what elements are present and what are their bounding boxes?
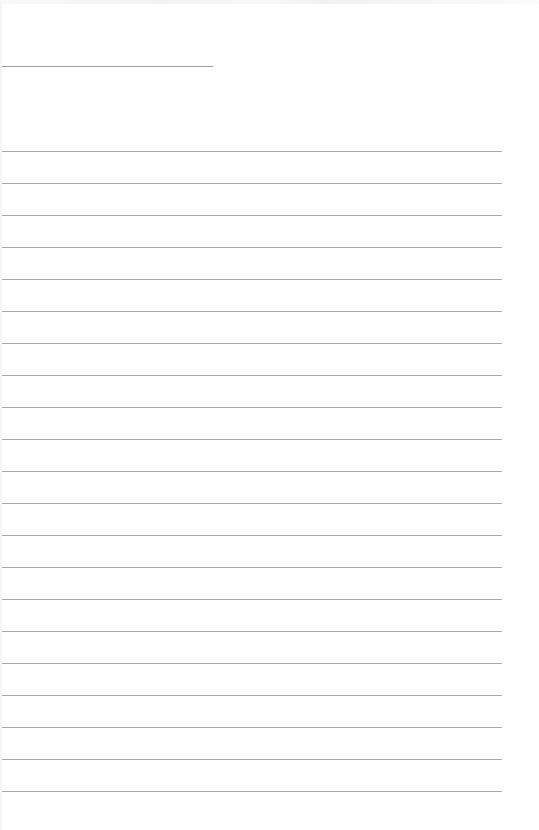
ruled-line [2,407,502,408]
ruled-line [2,727,502,728]
ruled-line [2,503,502,504]
ruled-line [2,439,502,440]
ruled-line [2,247,502,248]
page-left-edge [0,0,3,830]
ruled-line [2,215,502,216]
ruled-line [2,567,502,568]
ruled-line [2,471,502,472]
ruled-line [2,279,502,280]
ruled-line [2,599,502,600]
header-name-line [2,66,213,67]
ruled-line [2,631,502,632]
ruled-line [2,791,502,792]
ruled-line [2,535,502,536]
ruled-line [2,375,502,376]
ruled-line [2,343,502,344]
ruled-line [2,151,502,152]
ruled-line [2,759,502,760]
ruled-line [2,695,502,696]
ruled-line [2,183,502,184]
page-top-shadow [0,0,539,4]
ruled-line [2,311,502,312]
ruled-line [2,663,502,664]
